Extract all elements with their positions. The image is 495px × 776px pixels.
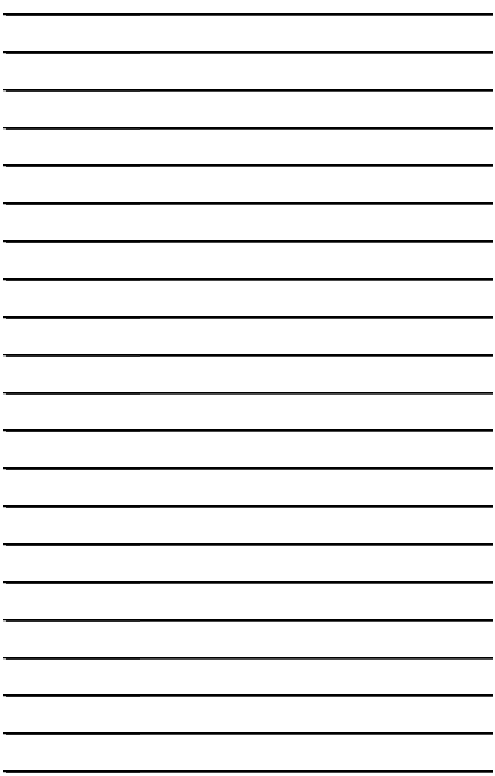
ruled-line-left-tip	[3, 318, 6, 319]
ruled-line-left-tip	[3, 583, 6, 584]
ruled-line-right-segment	[140, 696, 493, 697]
ruled-line	[3, 657, 493, 660]
ruled-line-right-segment	[140, 469, 493, 470]
ruled-line	[3, 13, 493, 16]
ruled-line	[3, 51, 493, 54]
ruled-line-left-segment	[3, 90, 140, 91]
ruled-line-left-segment	[3, 772, 140, 773]
ruled-line	[3, 505, 493, 508]
ruled-line	[3, 694, 493, 697]
ruled-line	[3, 619, 493, 622]
ruled-line-left-segment	[3, 393, 140, 394]
ruled-line	[3, 429, 493, 432]
ruled-line-left-segment	[3, 696, 140, 697]
ruled-line-left-tip	[3, 696, 6, 697]
ruled-line-right-segment	[140, 15, 493, 16]
ruled-line-left-segment	[3, 583, 140, 584]
ruled-line	[3, 354, 493, 357]
ruled-line	[3, 392, 493, 395]
ruled-line-right-segment	[140, 53, 493, 54]
ruled-line-left-segment	[3, 15, 140, 16]
ruled-line-left-tip	[3, 734, 6, 735]
ruled-line-right-segment	[140, 242, 493, 243]
ruled-line	[3, 240, 493, 243]
ruled-line-right-segment	[140, 129, 493, 130]
ruled-line-left-tip	[3, 431, 6, 432]
ruled-line-left-segment	[3, 545, 140, 546]
ruled-line-left-segment	[3, 242, 140, 243]
ruled-line-left-tip	[3, 620, 6, 621]
ruled-line-left-tip	[3, 355, 6, 356]
ruled-line-left-tip	[3, 393, 6, 394]
ruled-line-left-segment	[3, 469, 140, 470]
ruled-line-left-tip	[3, 469, 6, 470]
ruled-line	[3, 164, 493, 167]
ruled-line	[3, 467, 493, 470]
ruled-line	[3, 316, 493, 319]
ruled-line-left-segment	[3, 128, 140, 129]
ruled-line	[3, 581, 493, 584]
ruled-line	[3, 278, 493, 281]
ruled-line-left-tip	[3, 242, 6, 243]
ruled-line-right-segment	[140, 356, 493, 357]
ruled-line	[3, 202, 493, 205]
ruled-line-left-segment	[3, 507, 140, 508]
ruled-line-right-segment	[140, 431, 493, 432]
ruled-line-left-tip	[3, 15, 6, 16]
ruled-line-left-segment	[3, 204, 140, 205]
ruled-line	[3, 89, 493, 92]
ruled-line-right-segment	[140, 621, 493, 622]
ruled-line-right-segment	[140, 507, 493, 508]
ruled-line-right-segment	[140, 318, 493, 319]
ruled-line-left-segment	[3, 431, 140, 432]
ruled-line-left-segment	[3, 355, 140, 356]
ruled-line-right-segment	[140, 772, 493, 773]
ruled-line-left-segment	[3, 166, 140, 167]
ruled-line-right-segment	[140, 166, 493, 167]
ruled-line	[3, 127, 493, 130]
ruled-line-left-tip	[3, 53, 6, 54]
ruled-line-left-tip	[3, 280, 6, 281]
ruled-line-left-tip	[3, 90, 6, 91]
ruled-line-left-segment	[3, 658, 140, 659]
ruled-line-right-segment	[140, 734, 493, 735]
ruled-line-left-segment	[3, 280, 140, 281]
ruled-line-right-segment	[140, 658, 493, 659]
ruled-line-left-tip	[3, 128, 6, 129]
ruled-line-left-tip	[3, 204, 6, 205]
ruled-line-right-segment	[140, 280, 493, 281]
ruled-line	[3, 543, 493, 546]
ruled-line-left-tip	[3, 507, 6, 508]
ruled-line-right-segment	[140, 204, 493, 205]
ruled-line-left-segment	[3, 53, 140, 54]
ruled-line-left-segment	[3, 620, 140, 621]
lined-paper-page	[0, 0, 495, 776]
ruled-line-right-segment	[140, 393, 493, 394]
ruled-line-right-segment	[140, 583, 493, 584]
ruled-line	[3, 770, 493, 773]
ruling-area[interactable]	[0, 0, 495, 776]
ruled-line-left-segment	[3, 318, 140, 319]
ruled-line	[3, 732, 493, 735]
ruled-line-left-tip	[3, 658, 6, 659]
ruled-line-left-tip	[3, 772, 6, 773]
ruled-line-left-tip	[3, 545, 6, 546]
ruled-line-right-segment	[140, 91, 493, 92]
ruled-line-left-segment	[3, 734, 140, 735]
ruled-line-right-segment	[140, 545, 493, 546]
ruled-line-left-tip	[3, 166, 6, 167]
